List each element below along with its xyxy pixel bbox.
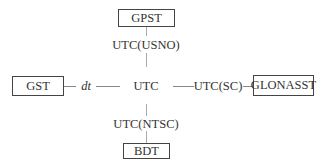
node-bdt: BDT — [123, 143, 170, 159]
connector-bdt-upper — [146, 104, 147, 116]
link-label-utc-ntsc: UTC(NTSC) — [113, 117, 178, 132]
node-gpst: GPST — [118, 9, 175, 27]
node-gst: GST — [12, 76, 64, 96]
link-label-utc-usno: UTC(USNO) — [112, 38, 179, 53]
connector-bdt-lower — [146, 131, 147, 143]
connector-utc-sc — [173, 86, 194, 87]
link-label-utc-sc: UTC(SC) — [194, 79, 243, 94]
connector-gpst-lower — [146, 53, 147, 67]
node-glonasst: GLONASST — [253, 75, 314, 96]
connector-dt-utc — [96, 86, 120, 87]
node-bdt-label: BDT — [134, 144, 159, 159]
node-gst-label: GST — [26, 79, 50, 94]
link-label-dt: dt — [81, 79, 91, 94]
center-utc-label: UTC — [134, 79, 159, 94]
node-gpst-label: GPST — [131, 11, 162, 26]
connector-gpst-upper — [146, 27, 147, 36]
connector-gst-dt — [64, 86, 76, 87]
node-glonasst-label: GLONASST — [251, 78, 316, 93]
